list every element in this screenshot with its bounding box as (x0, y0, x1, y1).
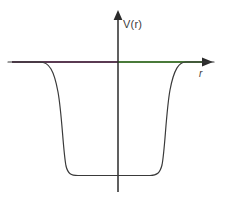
potential-well-curve (8, 62, 214, 176)
potential-well-figure: V(r) r (0, 0, 230, 202)
axis-arrow-up-icon (114, 10, 123, 20)
plot-canvas (0, 0, 230, 202)
y-axis-label: V(r) (123, 19, 142, 30)
x-axis-label: r (199, 69, 202, 79)
